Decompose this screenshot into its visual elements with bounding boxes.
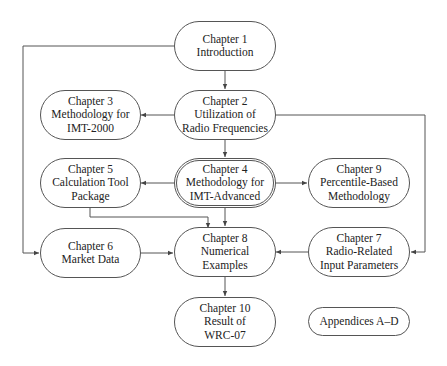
node-label: Examples <box>202 259 247 273</box>
node-chapter-4: Chapter 4 Methodology for IMT-Advanced <box>174 158 276 208</box>
edge-ch1-ch6 <box>23 46 174 253</box>
chapter-flow-diagram: Chapter 1 Introduction Chapter 2 Utiliza… <box>0 0 447 366</box>
node-label: Chapter 2 <box>202 95 247 109</box>
node-label: Percentile-Based <box>320 176 398 190</box>
node-chapter-7: Chapter 7 Radio-Related Input Parameters <box>308 227 410 277</box>
node-label: Chapter 7 <box>336 232 381 246</box>
node-chapter-6: Chapter 6 Market Data <box>40 228 141 278</box>
edge-ch5-ch8 <box>90 207 208 228</box>
node-label: Package <box>71 190 109 204</box>
node-label: Appendices A–D <box>320 315 399 329</box>
node-chapter-3: Chapter 3 Methodology for IMT-2000 <box>40 90 141 140</box>
node-label: Chapter 8 <box>202 232 247 246</box>
node-label: Numerical <box>201 245 250 259</box>
node-label: Introduction <box>197 46 254 60</box>
node-label: Chapter 4 <box>202 163 247 177</box>
node-chapter-10: Chapter 10 Result of WRC-07 <box>174 297 276 347</box>
node-label: IMT-Advanced <box>190 190 260 204</box>
node-label: WRC-07 <box>204 329 246 343</box>
node-label: Radio-Related <box>326 245 392 259</box>
node-label: Methodology for <box>51 108 129 122</box>
node-label: Chapter 3 <box>68 95 113 109</box>
node-label: Chapter 10 <box>200 302 251 316</box>
node-label: Calculation Tool <box>52 176 129 190</box>
node-label: Methodology <box>328 190 390 204</box>
node-chapter-1: Chapter 1 Introduction <box>174 21 276 71</box>
node-chapter-2: Chapter 2 Utilization of Radio Frequenci… <box>174 90 276 140</box>
node-chapter-9: Chapter 9 Percentile-Based Methodology <box>308 158 410 208</box>
node-label: Chapter 1 <box>202 33 247 47</box>
node-label: Chapter 9 <box>336 163 381 177</box>
node-label: Radio Frequencies <box>182 122 268 136</box>
node-label: Input Parameters <box>320 259 398 273</box>
node-label: Chapter 5 <box>68 163 113 177</box>
node-chapter-8: Chapter 8 Numerical Examples <box>174 227 276 277</box>
node-label: IMT-2000 <box>67 122 114 136</box>
node-label: Utilization of <box>194 108 256 122</box>
node-appendices: Appendices A–D <box>308 307 410 336</box>
node-label: Market Data <box>62 253 120 267</box>
node-chapter-5: Chapter 5 Calculation Tool Package <box>40 158 141 208</box>
node-label: Result of <box>204 315 246 329</box>
node-label: Chapter 6 <box>68 240 113 254</box>
node-label: Methodology for <box>186 176 264 190</box>
